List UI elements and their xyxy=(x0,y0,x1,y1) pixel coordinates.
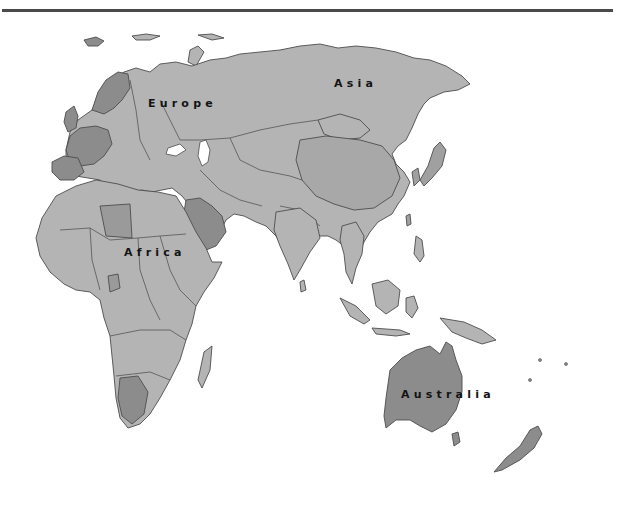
pacific-islands xyxy=(529,359,568,382)
label-europe: Europe xyxy=(148,97,217,110)
world-map xyxy=(0,0,620,505)
maritime-southeast-asia xyxy=(340,280,496,344)
oceania xyxy=(384,342,542,472)
label-australia: Australia xyxy=(401,388,495,401)
east-asia-islands xyxy=(406,142,446,226)
label-asia: Asia xyxy=(334,77,377,90)
label-africa: Africa xyxy=(124,246,186,259)
